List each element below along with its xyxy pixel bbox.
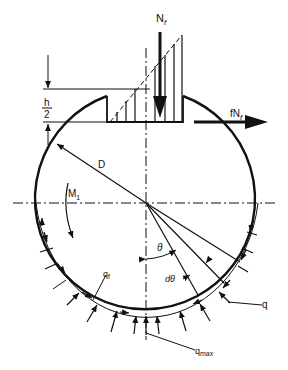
free-body-diagram: Nf fNf h 2 D M1 θ dθ qf q qmax [0, 0, 288, 370]
friction-pressure-label: qf [103, 269, 110, 280]
friction-force-label: fNf [230, 108, 243, 122]
diameter-label: D [98, 159, 105, 170]
angle-label: θ [157, 242, 163, 253]
half-height-numerator: h [44, 97, 50, 108]
half-height-denominator: 2 [44, 109, 50, 120]
angle-increment-label: dθ [165, 274, 175, 284]
max-pressure-label: qmax [195, 346, 214, 357]
pressure-envelope [36, 203, 258, 317]
pressure-label: q [262, 299, 268, 310]
contact-block [107, 96, 183, 122]
normal-force-label: Nf [156, 12, 167, 27]
moment-label: M1 [68, 188, 80, 201]
load-distribution-hatch [117, 35, 182, 122]
